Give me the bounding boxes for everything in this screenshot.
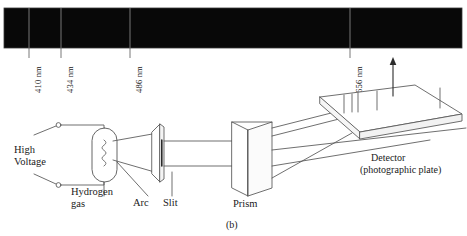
- prism: [232, 122, 272, 196]
- ray-lower-1: [272, 140, 430, 166]
- cone-bottom-edge: [113, 160, 158, 173]
- hv-lead-bottom: [34, 174, 56, 184]
- leader-arc: [117, 162, 148, 196]
- label-detector: Detector: [371, 152, 405, 163]
- label-hydrogen-gas: Hydrogen gas: [71, 186, 113, 210]
- prism-right-face: [248, 122, 272, 196]
- label-prism: Prism: [233, 198, 258, 210]
- hydrogen-tube: [92, 128, 117, 182]
- hv-terminal-top: [56, 123, 61, 128]
- hv-terminal-bottom: [56, 183, 61, 188]
- light-cone-source: [113, 133, 158, 173]
- arrow-head: [390, 57, 397, 65]
- label-slit: Slit: [163, 197, 178, 209]
- beam-slit-to-prism: [164, 141, 232, 166]
- figure-root: 410 nm434 nm486 nm656 nm: [0, 0, 467, 236]
- label-detector-sub: (photographic plate): [360, 164, 441, 175]
- label-arc: Arc: [133, 197, 149, 209]
- label-high-voltage: High Voltage: [14, 144, 46, 168]
- hv-lead-top: [34, 126, 56, 135]
- cone-top-edge: [113, 133, 158, 141]
- slit-plate-face: [152, 124, 160, 182]
- prism-front-face: [232, 122, 248, 196]
- figure-label: (b): [226, 219, 238, 230]
- ray-lower-2: [272, 133, 352, 178]
- slit-plate: [152, 124, 164, 182]
